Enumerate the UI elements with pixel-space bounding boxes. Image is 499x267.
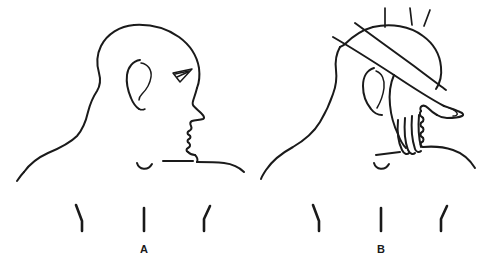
figure-illustration: A [0, 0, 499, 267]
figure-background [0, 0, 499, 267]
panel-label-a: A [140, 243, 148, 255]
ear-lobe-a [139, 109, 145, 110]
panel-label-b: B [377, 243, 385, 255]
figure-root: A [0, 0, 499, 267]
